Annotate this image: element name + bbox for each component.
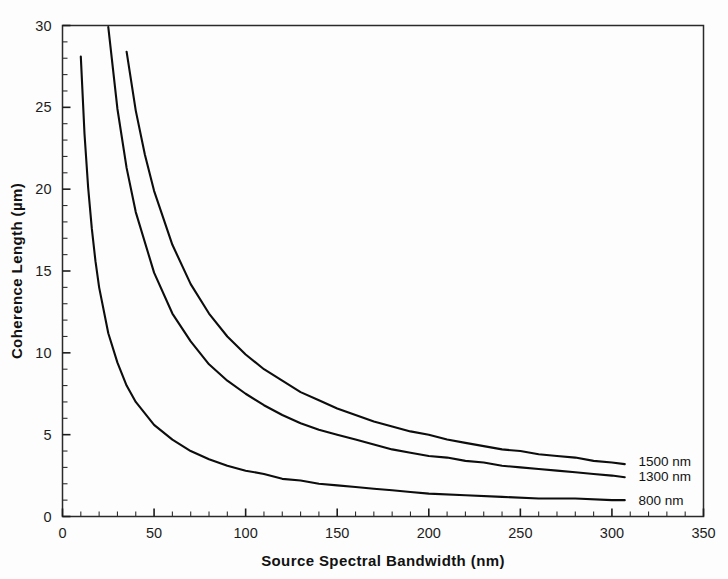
x-tick-label: 350 bbox=[691, 525, 715, 541]
y-tick-label: 0 bbox=[43, 509, 51, 525]
x-tick-label: 50 bbox=[146, 525, 162, 541]
series-label-800-nm: 800 nm bbox=[638, 493, 683, 508]
chart-background bbox=[0, 0, 728, 579]
series-label-1500-nm: 1500 nm bbox=[638, 454, 691, 469]
x-axis-title: Source Spectral Bandwidth (nm) bbox=[261, 552, 505, 569]
y-tick-label: 25 bbox=[35, 99, 51, 115]
x-tick-label: 250 bbox=[508, 525, 532, 541]
y-tick-label: 20 bbox=[35, 181, 51, 197]
y-axis-title: Coherence Length (µm) bbox=[8, 183, 25, 359]
chart-figure: 050100150200250300350 051015202530 1500 … bbox=[0, 0, 728, 579]
y-tick-label: 15 bbox=[35, 263, 51, 279]
x-tick-label: 150 bbox=[325, 525, 349, 541]
coherence-length-chart: 050100150200250300350 051015202530 1500 … bbox=[0, 0, 728, 579]
series-label-1300-nm: 1300 nm bbox=[638, 469, 691, 484]
x-tick-label: 0 bbox=[58, 525, 66, 541]
x-tick-label: 300 bbox=[600, 525, 624, 541]
y-tick-label: 5 bbox=[43, 427, 51, 443]
y-tick-label: 10 bbox=[35, 345, 51, 361]
series-labels: 1500 nm1300 nm800 nm bbox=[638, 454, 691, 508]
x-tick-label: 200 bbox=[417, 525, 441, 541]
y-tick-label: 30 bbox=[35, 18, 51, 34]
x-tick-label: 100 bbox=[234, 525, 258, 541]
